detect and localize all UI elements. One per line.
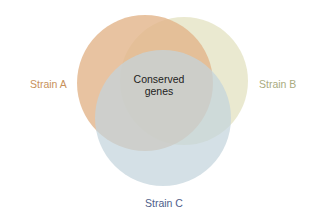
intersection-label: Conserved genes <box>124 73 194 97</box>
label-strain-b: Strain B <box>259 79 296 90</box>
circle-strain-c <box>95 50 231 186</box>
venn-diagram: Strain A Strain B Strain C Conserved gen… <box>0 0 314 212</box>
venn-circles <box>0 0 314 212</box>
label-strain-a: Strain A <box>30 79 67 90</box>
label-strain-c: Strain C <box>145 198 183 209</box>
intersection-label-line2: genes <box>124 85 194 97</box>
intersection-label-line1: Conserved <box>124 73 194 85</box>
